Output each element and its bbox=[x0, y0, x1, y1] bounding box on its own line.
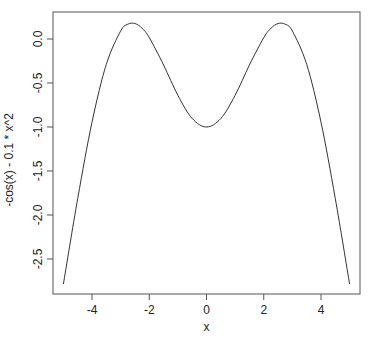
x-tick-label: 2 bbox=[260, 303, 267, 317]
y-axis: 0.0-0.5-1.0-1.5-2.0-2.5 bbox=[31, 30, 53, 269]
y-axis-title: -cos(x) - 0.1 * x^2 bbox=[2, 113, 16, 207]
y-tick-label: 0.0 bbox=[31, 30, 45, 47]
y-tick-label: -1.0 bbox=[31, 116, 45, 137]
y-tick-label: -2.0 bbox=[31, 204, 45, 225]
x-tick-label: 4 bbox=[318, 303, 325, 317]
y-tick-label: -1.5 bbox=[31, 160, 45, 181]
x-tick-label: -4 bbox=[87, 303, 98, 317]
x-axis: -4-2024 bbox=[87, 294, 325, 317]
chart-svg: -4-2024 0.0-0.5-1.0-1.5-2.0-2.5 x -cos(x… bbox=[0, 0, 374, 345]
y-tick-label: -2.5 bbox=[31, 248, 45, 269]
function-curve bbox=[63, 23, 349, 284]
x-tick-label: -2 bbox=[144, 303, 155, 317]
x-axis-title: x bbox=[204, 320, 210, 334]
y-tick-label: -0.5 bbox=[31, 72, 45, 93]
plot-frame bbox=[53, 12, 360, 294]
x-tick-label: 0 bbox=[203, 303, 210, 317]
